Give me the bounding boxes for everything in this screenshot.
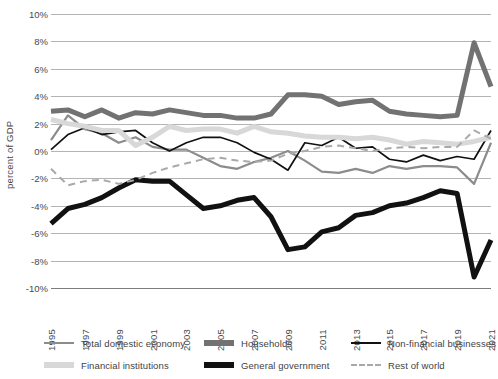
- legend-label: General government: [241, 360, 329, 371]
- legend-label: Rest of world: [388, 360, 445, 371]
- series-lines: [51, 14, 491, 288]
- legend-item[interactable]: Total domestic economy: [44, 338, 204, 349]
- y-tick-label: 2%: [8, 118, 48, 129]
- series-line: [51, 180, 491, 277]
- y-axis-tick-labels: 10%8%6%4%2%0%-2%-4%-6%-8%-10%: [8, 0, 48, 379]
- legend-item[interactable]: Households: [204, 338, 351, 349]
- y-tick-label: -2%: [8, 173, 48, 184]
- legend-swatch-icon: [44, 362, 74, 368]
- y-tick-label: 8%: [8, 36, 48, 47]
- legend-item[interactable]: General government: [204, 360, 351, 371]
- legend-label: Households: [241, 338, 292, 349]
- series-line: [51, 43, 491, 118]
- legend-swatch-icon: [44, 342, 74, 344]
- legend-swatch-icon: [204, 340, 234, 346]
- legend-item[interactable]: Financial institutions: [44, 360, 204, 371]
- series-line: [51, 115, 491, 184]
- y-tick-label: -8%: [8, 255, 48, 266]
- chart-legend: Total domestic economyHouseholdsNon-fina…: [44, 332, 498, 376]
- legend-swatch-icon: [351, 342, 381, 344]
- y-tick-label: 0%: [8, 146, 48, 157]
- plot-area: [51, 14, 491, 288]
- y-tick-label: -10%: [8, 283, 48, 294]
- x-axis-tick-labels: 1995199719992001200320052007200920112013…: [51, 289, 491, 329]
- legend-item[interactable]: Non-financial businesses: [351, 338, 498, 349]
- y-tick-label: 6%: [8, 63, 48, 74]
- legend-swatch-icon: [204, 362, 234, 368]
- y-tick-label: 10%: [8, 9, 48, 20]
- chart-root: percent of GDP 10%8%6%4%2%0%-2%-4%-6%-8%…: [0, 0, 498, 379]
- y-tick-label: 4%: [8, 91, 48, 102]
- legend-item[interactable]: Rest of world: [351, 360, 498, 371]
- y-tick-label: -4%: [8, 200, 48, 211]
- legend-swatch-icon: [351, 364, 381, 366]
- legend-label: Financial institutions: [81, 360, 169, 371]
- legend-label: Total domestic economy: [81, 338, 185, 349]
- y-tick-label: -6%: [8, 228, 48, 239]
- legend-label: Non-financial businesses: [388, 338, 496, 349]
